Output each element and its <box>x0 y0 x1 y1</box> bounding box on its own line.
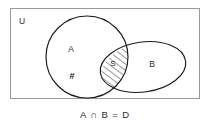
set-a-label: A <box>68 44 74 54</box>
region-marker-hash: # <box>69 71 74 81</box>
universe-label: U <box>19 16 25 26</box>
venn-diagram-canvas: U A # S B A ∩ B = D <box>0 0 210 125</box>
universe-rectangle <box>11 9 200 99</box>
venn-diagram-screenshot: U A # S B A ∩ B = D <box>0 0 210 125</box>
intersection-label: S <box>110 59 115 68</box>
set-b-label: B <box>149 59 155 69</box>
figure-caption: A ∩ B = D <box>80 109 130 120</box>
